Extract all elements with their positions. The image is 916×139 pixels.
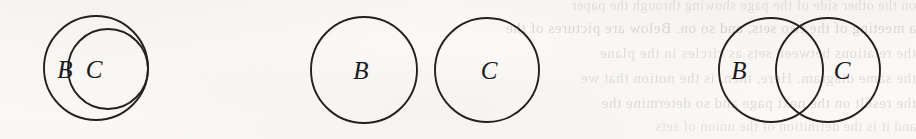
venn-diagram-b-and-c-disjoint: BC	[311, 17, 539, 123]
set-circle-c	[776, 18, 880, 122]
set-label-b: B	[57, 56, 72, 83]
scanned-page: on the other side of the page showing th…	[0, 0, 916, 139]
set-label-c: C	[481, 57, 498, 84]
venn-diagram-b-and-c-overlapping: BC	[719, 18, 880, 122]
set-circle-c	[68, 29, 148, 109]
venn-diagram-c-subset-of-b: BC	[44, 16, 148, 120]
set-label-b: B	[353, 57, 368, 84]
set-label-b: B	[731, 57, 746, 84]
set-diagrams-figure: BC BC BC	[0, 0, 916, 139]
set-label-c: C	[834, 57, 851, 84]
set-label-c: C	[86, 56, 103, 83]
